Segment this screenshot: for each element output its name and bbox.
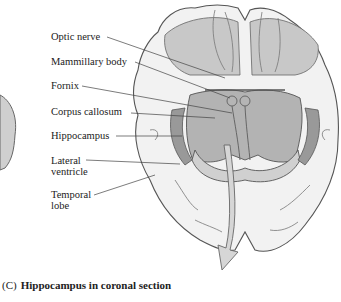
label-temporal-lobe: Temporal lobe — [51, 189, 91, 211]
label-lateral-ventricle-line1: Lateral — [51, 155, 88, 166]
label-fornix: Fornix — [51, 80, 79, 91]
adjacent-brain-fragment — [0, 95, 16, 170]
label-temporal-lobe-line2: lobe — [51, 200, 91, 211]
caption-text: Hippocampus in coronal section — [21, 279, 171, 291]
figure-caption: (C)Hippocampus in coronal section — [2, 279, 171, 291]
label-lateral-ventricle: Lateral ventricle — [51, 155, 88, 177]
brain-diagram — [0, 0, 341, 302]
mammillary-body-right — [240, 96, 250, 106]
label-corpus-callosum: Corpus callosum — [51, 106, 122, 117]
caption-letter: (C) — [2, 279, 17, 291]
label-optic-nerve: Optic nerve — [51, 31, 100, 42]
label-lateral-ventricle-line2: ventricle — [51, 166, 88, 177]
label-temporal-lobe-line1: Temporal — [51, 189, 91, 200]
leader-temporal-lobe — [94, 175, 155, 195]
label-hippocampus: Hippocampus — [51, 130, 109, 141]
label-mammillary-body: Mammillary body — [51, 56, 127, 67]
